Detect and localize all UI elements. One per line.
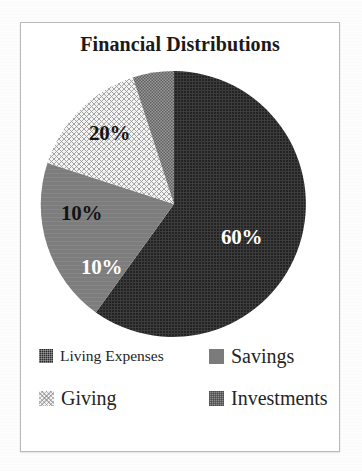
pie-slice-label-savings: 10% xyxy=(81,255,122,280)
legend-item-giving: Giving xyxy=(39,387,117,410)
legend-item-living-expenses: Living Expenses xyxy=(39,347,164,365)
scanned-page-background: Financial Distributions xyxy=(0,0,362,471)
legend-item-investments: Investments xyxy=(209,387,328,410)
chart-legend: Living Expenses Savings Giving Investmen… xyxy=(33,345,329,437)
pie-chart: 60% 10% 10% 20% xyxy=(39,69,309,339)
legend-label-giving: Giving xyxy=(61,387,117,410)
legend-label-investments: Investments xyxy=(231,387,328,410)
legend-swatch-investments-icon xyxy=(209,391,224,406)
pie-slice-label-investments: 20% xyxy=(89,121,130,146)
legend-row: Living Expenses Savings xyxy=(33,345,329,385)
legend-label-living-expenses: Living Expenses xyxy=(60,347,164,365)
legend-label-savings: Savings xyxy=(231,345,294,368)
pie-slice-label-giving: 10% xyxy=(61,201,102,226)
pie-slice-label-living-expenses: 60% xyxy=(221,225,262,250)
legend-swatch-savings-icon xyxy=(209,349,224,364)
chart-frame: Financial Distributions xyxy=(20,22,340,452)
legend-swatch-living-expenses-icon xyxy=(39,349,53,363)
chart-title: Financial Distributions xyxy=(21,33,339,56)
legend-row: Giving Investments xyxy=(33,387,329,427)
legend-swatch-giving-icon xyxy=(39,391,54,406)
legend-item-savings: Savings xyxy=(209,345,294,368)
